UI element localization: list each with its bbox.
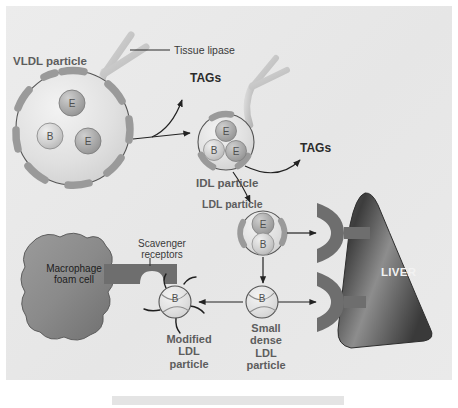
small-dense-ldl-particle-label: Small dense LDL particle	[237, 322, 295, 371]
svg-text:B: B	[260, 239, 267, 250]
ldl-particle-label: LDL particle	[202, 199, 263, 211]
svg-text:B: B	[47, 131, 54, 142]
tissue-lipase-label: Tissue lipase	[174, 45, 235, 57]
svg-text:E: E	[260, 219, 267, 230]
tags-label-1: TAGs	[190, 72, 221, 85]
macrophage-foam-cell-label: Macrophage foam cell	[35, 263, 113, 285]
liver-label: LIVER	[381, 266, 416, 279]
tags-label-2: TAGs	[300, 142, 331, 155]
svg-text:B: B	[259, 293, 266, 304]
svg-text:E: E	[223, 126, 230, 137]
svg-text:E: E	[233, 146, 240, 157]
vldl-particle: E B E	[16, 71, 130, 186]
svg-text:B: B	[172, 293, 179, 304]
idl-particle: E B E	[198, 114, 254, 170]
scavenger-receptors-label: Scavenger receptors	[127, 238, 197, 260]
ldl-particle: E B	[240, 211, 285, 255]
small-dense-ldl-particle: B	[246, 286, 278, 318]
svg-text:B: B	[211, 145, 218, 156]
macrophage-foam-cell	[21, 233, 114, 340]
idl-particle-label: IDL particle	[196, 177, 258, 190]
lipoprotein-metabolism-figure: E B E E B	[0, 0, 458, 408]
vldl-flow-arrows	[133, 100, 190, 139]
vldl-particle-label: VLDL particle	[13, 55, 87, 68]
svg-text:E: E	[69, 98, 76, 109]
modified-ldl-particle-label: Modified LDL particle	[153, 333, 225, 370]
tissue-lipase-2-icon	[247, 58, 287, 125]
svg-text:E: E	[85, 136, 92, 147]
